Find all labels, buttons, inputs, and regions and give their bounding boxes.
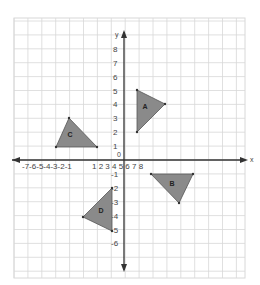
y-tick-label: 1: [113, 142, 118, 151]
y-tick-label: -6: [111, 239, 119, 248]
y-tick-label: 6: [113, 73, 118, 82]
vertex-dot: [178, 202, 180, 204]
y-axis-up-arrow-icon: [121, 30, 127, 38]
y-tick-label: 4: [113, 100, 118, 109]
vertex-dot: [192, 173, 194, 175]
vertex-dot: [150, 173, 152, 175]
grid-lines: [14, 18, 245, 278]
y-tick-label: 5: [113, 87, 118, 96]
y-tick-label: 8: [113, 45, 118, 54]
vertex-dot: [96, 146, 98, 148]
grid-border: [14, 18, 245, 278]
coordinate-plane: x -7-6-5-4-3-2-1 1 2 3 4 5 6 7 8 0 y 123…: [0, 0, 260, 285]
y-tick-label: -1: [111, 170, 119, 179]
triangle-label: C: [67, 131, 72, 138]
triangle-b: B: [150, 173, 194, 204]
vertex-dot: [55, 146, 57, 148]
triangle-a: A: [136, 89, 166, 133]
y-tick-label: 3: [113, 114, 118, 123]
vertex-dot: [111, 187, 113, 189]
vertex-dot: [68, 117, 70, 119]
x-axis-label: x: [250, 156, 254, 163]
x-ticks-negative: -7-6-5-4-3-2-1: [22, 162, 72, 171]
y-tick-label: 2: [113, 128, 118, 137]
vertex-dot: [136, 131, 138, 133]
y-axis-label: y: [115, 31, 119, 39]
triangle-label: D: [98, 207, 103, 214]
triangle-label: A: [142, 103, 147, 110]
y-axis-down-arrow-icon: [121, 264, 127, 272]
vertex-dot: [164, 103, 166, 105]
x-axis-left-arrow-icon: [12, 157, 20, 163]
triangle-shape: [137, 90, 165, 132]
vertex-dot: [136, 89, 138, 91]
triangle-label: B: [169, 180, 174, 187]
x-axis: x -7-6-5-4-3-2-1 1 2 3 4 5 6 7 8 0: [12, 151, 254, 171]
y-tick-label: 7: [113, 59, 118, 68]
vertex-dot: [111, 230, 113, 232]
origin-label: 0: [117, 151, 121, 158]
x-axis-right-arrow-icon: [240, 157, 248, 163]
triangle-shape: [151, 174, 193, 203]
vertex-dot: [82, 216, 84, 218]
